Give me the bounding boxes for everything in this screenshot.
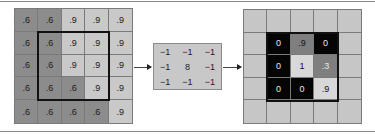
input-cell: .9	[85, 9, 108, 32]
output-cell	[338, 78, 361, 101]
output-cell: 1	[291, 55, 314, 78]
input-cell: .6	[38, 55, 61, 78]
output-cell: 0	[267, 78, 290, 101]
input-cell: .9	[62, 9, 85, 32]
input-cell: .6	[15, 100, 38, 123]
kernel-cell: −1	[154, 44, 176, 59]
output-cell	[244, 10, 267, 33]
output-cell	[338, 55, 361, 78]
output-cell	[314, 10, 337, 33]
input-cell: .6	[38, 77, 61, 100]
input-cell: .6	[15, 77, 38, 100]
kernel-cell: −1	[199, 74, 221, 89]
input-cell: .9	[109, 55, 132, 78]
arrow-right-icon	[223, 67, 241, 68]
arrow-right-icon	[134, 67, 151, 68]
output-cell	[314, 100, 337, 123]
input-cell: .9	[85, 32, 108, 55]
input-cell: .6	[62, 77, 85, 100]
output-cell: .9	[291, 33, 314, 56]
input-cell: .6	[62, 100, 85, 123]
input-cell: .6	[15, 9, 38, 32]
kernel-cell: −1	[154, 74, 176, 89]
kernel-matrix: −1 −1 −1 −1 8 −1 −1 −1 −1	[153, 43, 222, 90]
input-cell: .9	[109, 9, 132, 32]
output-image-grid: 0 .9 0 0 1 .3 0 0 .9	[243, 9, 362, 124]
kernel-cell: −1	[199, 44, 221, 59]
output-cell: 0	[291, 78, 314, 101]
output-cell: .9	[314, 78, 337, 101]
output-cell	[244, 55, 267, 78]
input-cell: .6	[15, 55, 38, 78]
input-cell: .9	[62, 55, 85, 78]
input-cell: .9	[109, 77, 132, 100]
output-cell	[338, 10, 361, 33]
output-cell	[244, 33, 267, 56]
output-cell	[291, 10, 314, 33]
output-cell: 0	[314, 33, 337, 56]
input-image-grid: .6 .6 .9 .9 .9 .6 .6 .9 .9 .9 .6 .6 .9 .…	[14, 8, 133, 124]
output-cell	[244, 78, 267, 101]
output-cell	[244, 100, 267, 123]
kernel-cell: 8	[176, 59, 198, 74]
input-cell: .9	[62, 32, 85, 55]
kernel-cell: −1	[199, 59, 221, 74]
input-cell: .9	[85, 55, 108, 78]
output-cell: 0	[267, 33, 290, 56]
input-cell: .6	[38, 32, 61, 55]
input-cell: .6	[38, 9, 61, 32]
output-cell	[338, 100, 361, 123]
output-cell: 0	[267, 55, 290, 78]
input-cell: .9	[85, 77, 108, 100]
output-cell	[291, 100, 314, 123]
top-rule	[0, 1, 375, 2]
output-cell	[267, 10, 290, 33]
input-cell: .9	[109, 100, 132, 123]
output-cell: .3	[314, 55, 337, 78]
input-cell: .6	[85, 100, 108, 123]
output-cell	[267, 100, 290, 123]
kernel-cell: −1	[176, 44, 198, 59]
kernel-cell: −1	[154, 59, 176, 74]
input-cell: .6	[38, 100, 61, 123]
kernel-cell: −1	[176, 74, 198, 89]
input-cell: .6	[15, 32, 38, 55]
output-cell	[338, 33, 361, 56]
bottom-rule	[0, 131, 375, 132]
input-cell: .9	[109, 32, 132, 55]
